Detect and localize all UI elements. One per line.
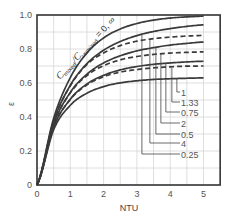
legend-label: 1 — [181, 88, 186, 98]
effectiveness-ntu-chart: 11.330.7520.540.25 012345 00.20.40.60.81… — [0, 0, 234, 220]
x-tick-label: 1 — [68, 189, 73, 199]
y-tick-label: 0.4 — [19, 112, 32, 122]
legend-label: 4 — [181, 139, 186, 149]
x-tick-label: 0 — [34, 189, 39, 199]
x-axis-label: NTU — [120, 203, 139, 213]
background — [0, 0, 234, 220]
x-tick-label: 5 — [201, 189, 206, 199]
legend-label: 0.75 — [181, 108, 199, 118]
legend-label: 0.25 — [181, 150, 199, 160]
legend-label: 1.33 — [181, 98, 199, 108]
y-tick-label: 1.0 — [19, 10, 32, 20]
x-tick-label: 2 — [101, 189, 106, 199]
y-tick-label: 0.2 — [19, 146, 32, 156]
y-tick-label: 0.6 — [19, 78, 32, 88]
y-axis-label: ε — [6, 102, 16, 106]
legend-label: 2 — [181, 119, 186, 129]
x-tick-label: 3 — [134, 189, 139, 199]
y-tick-label: 0.8 — [19, 44, 32, 54]
x-tick-label: 4 — [168, 189, 173, 199]
y-tick-label: 0 — [27, 180, 32, 190]
